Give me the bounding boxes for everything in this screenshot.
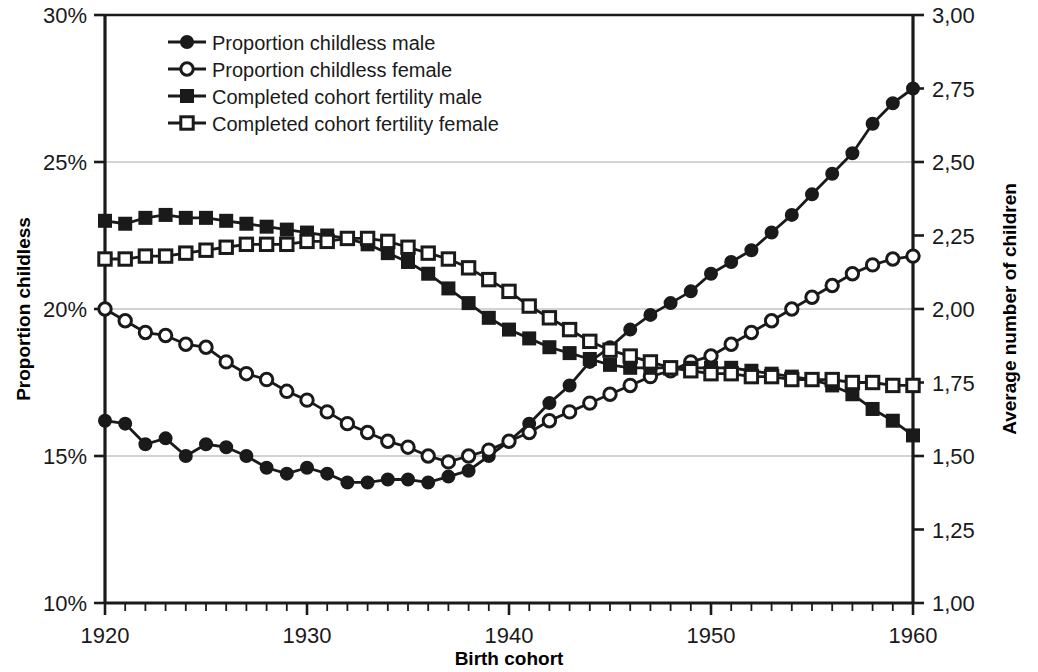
- data-point-marker: [563, 379, 575, 391]
- data-point-marker: [462, 450, 474, 462]
- y-left-tick-label: 10%: [43, 591, 87, 616]
- data-point-marker: [402, 256, 414, 268]
- data-point-marker: [220, 215, 232, 227]
- data-point-marker: [745, 326, 757, 338]
- data-point-marker: [139, 250, 151, 262]
- data-point-marker: [765, 226, 777, 238]
- data-point-marker: [826, 279, 838, 291]
- y-left-tick-label: 15%: [43, 444, 87, 469]
- data-point-marker: [119, 417, 131, 429]
- data-point-marker: [503, 323, 515, 335]
- y-right-tick-label: 1,50: [932, 444, 975, 469]
- data-point-marker: [523, 332, 535, 344]
- legend-label: Completed cohort fertility male: [212, 86, 482, 108]
- x-axis-title: Birth cohort: [455, 648, 564, 669]
- y-right-tick-label: 1,25: [932, 518, 975, 543]
- data-point-marker: [361, 426, 373, 438]
- data-point-marker: [442, 282, 454, 294]
- data-point-marker: [907, 250, 919, 262]
- y-axis-left-ticks: 10%15%20%25%30%: [43, 3, 105, 616]
- data-point-marker: [705, 367, 717, 379]
- data-point-marker: [705, 268, 717, 280]
- data-point-marker: [180, 212, 192, 224]
- data-point-marker: [422, 450, 434, 462]
- data-point-marker: [200, 438, 212, 450]
- data-point-marker: [99, 253, 111, 265]
- data-point-marker: [765, 315, 777, 327]
- y-left-tick-label: 30%: [43, 3, 87, 28]
- data-point-marker: [624, 323, 636, 335]
- data-point-marker: [543, 341, 555, 353]
- x-tick-label: 1930: [283, 623, 332, 648]
- data-point-marker: [846, 147, 858, 159]
- data-point-marker: [866, 376, 878, 388]
- data-point-marker: [887, 415, 899, 427]
- data-point-marker: [866, 118, 878, 130]
- y-right-tick-label: 1,00: [932, 591, 975, 616]
- data-point-marker: [442, 456, 454, 468]
- data-point-marker: [725, 256, 737, 268]
- data-point-marker: [382, 235, 394, 247]
- y-axis-right-ticks: 1,001,251,501,752,002,252,502,753,00: [913, 3, 975, 616]
- data-point-marker: [907, 429, 919, 441]
- data-point-marker: [806, 373, 818, 385]
- chart-container: 10%15%20%25%30%1,001,251,501,752,002,252…: [0, 0, 1038, 672]
- data-point-marker: [159, 432, 171, 444]
- data-point-marker: [543, 312, 555, 324]
- data-point-marker: [99, 415, 111, 427]
- data-point-marker: [604, 388, 616, 400]
- data-point-marker: [907, 82, 919, 94]
- data-point-marker: [119, 253, 131, 265]
- data-point-marker: [826, 373, 838, 385]
- data-point-marker: [200, 212, 212, 224]
- data-point-marker: [887, 253, 899, 265]
- data-point-marker: [402, 441, 414, 453]
- data-point-marker: [685, 365, 697, 377]
- data-point-marker: [240, 218, 252, 230]
- data-point-marker: [341, 476, 353, 488]
- data-point-marker: [220, 241, 232, 253]
- data-point-marker: [806, 291, 818, 303]
- data-point-marker: [624, 350, 636, 362]
- legend-item: Completed cohort fertility female: [168, 113, 499, 135]
- y-axis-right-title: Average number of children: [999, 183, 1020, 435]
- data-point-marker: [180, 247, 192, 259]
- data-point-marker: [543, 415, 555, 427]
- data-point-marker: [139, 438, 151, 450]
- data-point-marker: [462, 262, 474, 274]
- data-point-marker: [887, 379, 899, 391]
- data-point-marker: [180, 338, 192, 350]
- data-point-marker: [139, 212, 151, 224]
- data-point-marker: [664, 297, 676, 309]
- legend-item: Proportion childless male: [168, 32, 435, 54]
- data-point-marker: [402, 241, 414, 253]
- data-point-marker: [99, 215, 111, 227]
- data-point-marker: [765, 370, 777, 382]
- data-point-marker: [462, 465, 474, 477]
- data-point-marker: [240, 238, 252, 250]
- data-point-marker: [725, 338, 737, 350]
- y-right-tick-label: 2,75: [932, 77, 975, 102]
- legend-label: Completed cohort fertility female: [212, 113, 499, 135]
- data-point-marker: [159, 209, 171, 221]
- data-point-marker: [361, 476, 373, 488]
- data-point-marker: [846, 268, 858, 280]
- data-point-marker: [200, 244, 212, 256]
- data-point-marker: [907, 379, 919, 391]
- data-point-marker: [483, 444, 495, 456]
- data-point-marker: [584, 353, 596, 365]
- y-axis-left-title: Proportion childless: [13, 217, 34, 401]
- data-point-marker: [685, 285, 697, 297]
- data-point-marker: [301, 235, 313, 247]
- data-point-marker: [260, 238, 272, 250]
- data-point-marker: [523, 426, 535, 438]
- data-point-marker: [341, 417, 353, 429]
- y-right-tick-label: 2,00: [932, 297, 975, 322]
- data-point-marker: [402, 473, 414, 485]
- x-tick-label: 1920: [81, 623, 130, 648]
- data-point-marker: [442, 470, 454, 482]
- x-axis-ticks: 19201930194019501960: [81, 603, 938, 648]
- data-point-marker: [281, 223, 293, 235]
- data-point-marker: [321, 406, 333, 418]
- data-point-marker: [745, 244, 757, 256]
